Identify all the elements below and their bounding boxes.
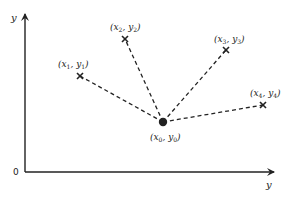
dashed-connector-p4 [163,105,263,122]
center-point-label: (x0, y0) [150,132,181,143]
point-label-4: (x4, y4) [250,88,281,99]
dashed-connector-p3 [163,50,226,122]
cross-marker-3 [223,47,229,53]
cross-marker-1 [77,73,83,79]
cross-marker-2 [122,36,128,42]
dashed-connector-p1 [80,76,163,122]
center-point-dot [159,118,167,126]
point-label-2: (x2, y2) [110,22,141,33]
horizontal-axis-label: y [265,179,272,190]
point-label-1: (x1, y1) [58,59,89,70]
diagram-canvas: y y 0 (x0, y0)(x1, y1)(x2, y2)(x3, y3)(x… [0,0,286,203]
point-label-3: (x3, y3) [214,34,245,45]
origin-label: 0 [13,167,19,177]
dashed-connector-p2 [125,39,163,122]
vertical-axis-label: y [10,12,17,23]
